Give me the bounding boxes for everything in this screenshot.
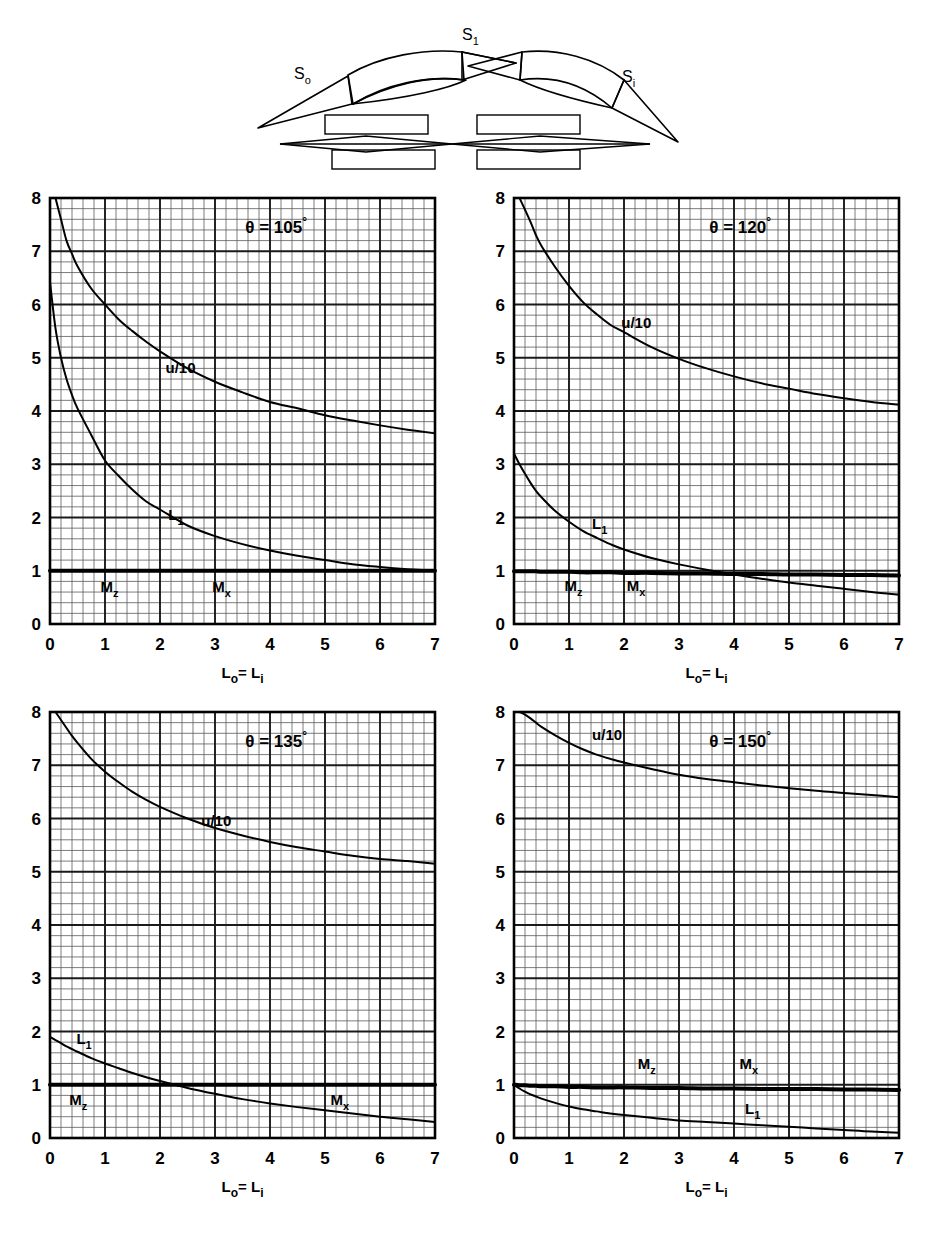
y-tick-label: 1	[32, 562, 41, 581]
curve-m-z-and-m-x	[514, 571, 899, 575]
curves	[514, 712, 899, 1133]
x-tick-label: 3	[210, 1149, 219, 1168]
chart-svg-theta-105: 01234567012345678u/10L1MzMxθ = 105°Lo= L…	[14, 186, 449, 686]
x-tick-label: 4	[729, 635, 739, 654]
curve-label-li: L1	[168, 506, 183, 527]
lower-flow-arc-left	[352, 80, 466, 104]
y-tick-label: 1	[496, 562, 505, 581]
chart-panel-theta-150: 01234567012345678u/10L1MzMxθ = 150°Lo= L…	[478, 700, 913, 1200]
x-tick-label: 1	[564, 1149, 573, 1168]
y-tick-labels: 012345678	[496, 703, 506, 1148]
y-tick-label: 2	[32, 1023, 41, 1042]
x-tick-label: 0	[509, 1149, 518, 1168]
x-tick-label: 5	[784, 1149, 793, 1168]
x-tick-label: 2	[155, 1149, 164, 1168]
y-tick-label: 8	[496, 189, 505, 208]
x-tick-label: 6	[839, 635, 848, 654]
x-tick-label: 5	[320, 635, 329, 654]
y-tick-label: 3	[32, 969, 41, 988]
y-tick-label: 7	[496, 242, 505, 261]
y-tick-label: 6	[32, 296, 41, 315]
x-tick-label: 1	[100, 1149, 109, 1168]
x-tick-label: 1	[564, 635, 573, 654]
curves	[50, 198, 435, 571]
curve-l-i	[514, 1085, 899, 1133]
x-axis-caption: Lo= Li	[686, 1178, 728, 1200]
lower-flow-arc-right	[520, 80, 612, 108]
theta-annotation: θ = 120°	[709, 215, 771, 237]
x-tick-label: 5	[320, 1149, 329, 1168]
y-tick-label: 3	[32, 455, 41, 474]
x-axis-caption: Lo= Li	[686, 664, 728, 686]
y-tick-label: 1	[496, 1076, 505, 1095]
x-tick-label: 0	[45, 1149, 54, 1168]
x-tick-label: 5	[784, 635, 793, 654]
x-tick-label: 6	[839, 1149, 848, 1168]
y-tick-label: 7	[32, 242, 41, 261]
cascade-schematic-diagram: So S1 Si	[240, 18, 690, 183]
x-tick-label: 3	[210, 635, 219, 654]
lower-left-lower-block	[332, 150, 435, 169]
lower-left-upper-block	[325, 115, 428, 134]
curve-label-u-over-10: u/10	[166, 359, 196, 376]
x-tick-label: 4	[265, 635, 275, 654]
y-tick-label: 2	[32, 509, 41, 528]
x-tick-label: 1	[100, 635, 109, 654]
x-tick-label: 7	[430, 1149, 439, 1168]
curve-label-li: L1	[76, 1030, 91, 1051]
x-tick-label: 2	[619, 635, 628, 654]
y-tick-label: 6	[496, 296, 505, 315]
x-tick-label: 2	[619, 1149, 628, 1168]
y-tick-label: 4	[496, 916, 506, 935]
outlet-streamline-wedge	[612, 80, 678, 142]
x-tick-label: 4	[265, 1149, 275, 1168]
y-tick-label: 4	[32, 402, 42, 421]
y-tick-label: 0	[32, 615, 41, 634]
curve-label-u-over-10: u/10	[592, 726, 622, 743]
y-tick-label: 3	[496, 969, 505, 988]
y-tick-label: 2	[496, 509, 505, 528]
theta-annotation: θ = 105°	[245, 215, 307, 237]
y-tick-labels: 012345678	[32, 703, 42, 1148]
x-tick-label: 0	[509, 635, 518, 654]
y-tick-label: 6	[496, 810, 505, 829]
curve-l-i	[50, 1037, 435, 1122]
y-tick-label: 1	[32, 1076, 41, 1095]
chart-panel-theta-120: 01234567012345678u/10L1MzMxθ = 120°Lo= L…	[478, 186, 913, 686]
y-tick-label: 0	[496, 615, 505, 634]
x-tick-label: 7	[894, 1149, 903, 1168]
x-tick-label: 6	[375, 635, 384, 654]
y-tick-label: 7	[496, 756, 505, 775]
y-tick-label: 4	[496, 402, 506, 421]
y-tick-label: 4	[32, 916, 42, 935]
y-tick-label: 8	[32, 703, 41, 722]
y-tick-label: 8	[496, 703, 505, 722]
left-blade-lower-edge	[353, 79, 464, 104]
x-tick-label: 0	[45, 635, 54, 654]
x-tick-label: 7	[430, 635, 439, 654]
y-tick-label: 2	[496, 1023, 505, 1042]
curve-label-mz: Mz	[638, 1055, 657, 1076]
x-tick-label: 2	[155, 635, 164, 654]
y-tick-label: 6	[32, 810, 41, 829]
curves	[514, 198, 899, 595]
curve-label-mx: Mx	[627, 577, 647, 598]
chart-svg-theta-135: 01234567012345678u/10L1MzMxθ = 135°Lo= L…	[14, 700, 449, 1200]
y-tick-label: 8	[32, 189, 41, 208]
x-tick-label: 6	[375, 1149, 384, 1168]
y-tick-label: 0	[32, 1129, 41, 1148]
x-tick-label: 3	[674, 1149, 683, 1168]
chart-svg-theta-150: 01234567012345678u/10L1MzMxθ = 150°Lo= L…	[478, 700, 913, 1200]
x-tick-label: 4	[729, 1149, 739, 1168]
chart-svg-theta-120: 01234567012345678u/10L1MzMxθ = 120°Lo= L…	[478, 186, 913, 686]
y-tick-label: 7	[32, 756, 41, 775]
schematic-svg: So S1 Si	[240, 18, 690, 183]
y-tick-label: 5	[496, 349, 505, 368]
y-tick-label: 5	[32, 349, 41, 368]
x-tick-label: 3	[674, 635, 683, 654]
curves	[50, 712, 435, 1122]
x-tick-labels: 01234567	[509, 635, 903, 654]
lower-right-upper-block	[477, 115, 580, 134]
x-tick-labels: 01234567	[45, 635, 439, 654]
y-tick-label: 5	[32, 863, 41, 882]
